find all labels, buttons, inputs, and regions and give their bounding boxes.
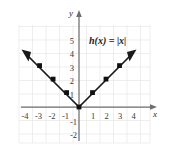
graph-figure: x y -4 -3 -2 -1 1 2 3 4 5 4 3 2 1 -1 -2 <box>0 0 170 159</box>
data-point <box>90 90 95 95</box>
data-point <box>37 63 42 68</box>
y-tick-label: 5 <box>70 36 74 46</box>
figure-background <box>0 0 170 159</box>
data-point <box>104 77 109 82</box>
x-tick-label: -4 <box>21 111 29 121</box>
data-point <box>117 63 122 68</box>
coordinate-plane-svg: x y -4 -3 -2 -1 1 2 3 4 5 4 3 2 1 -1 -2 <box>0 0 170 159</box>
x-axis-label: x <box>152 109 157 119</box>
y-axis-label: y <box>68 8 73 18</box>
x-tick-label: -1 <box>62 111 69 121</box>
data-point <box>64 90 69 95</box>
data-point-vertex <box>77 105 82 110</box>
x-tick-label: 2 <box>104 111 108 121</box>
x-tick-label: 1 <box>91 111 95 121</box>
y-tick-label: 2 <box>70 76 74 86</box>
data-point <box>51 77 56 82</box>
y-tick-label: 3 <box>70 63 74 73</box>
y-tick-label: -2 <box>70 130 77 140</box>
x-tick-label: 3 <box>118 111 122 121</box>
y-tick-label: -1 <box>70 117 77 127</box>
x-tick-label: -2 <box>48 111 55 121</box>
x-tick-label: -3 <box>35 111 42 121</box>
equation-label: h(x) = |x| <box>89 35 126 47</box>
